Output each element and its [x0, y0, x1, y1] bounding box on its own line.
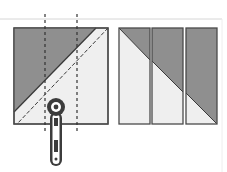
- cutter-hub: [54, 105, 59, 110]
- strip-3: [186, 28, 217, 124]
- cutter-guard: [54, 118, 58, 126]
- strip-1: [119, 28, 150, 124]
- strip-2: [152, 28, 183, 124]
- quilt-cutting-diagram: [0, 0, 227, 172]
- rotary-cutter-icon: [47, 98, 65, 166]
- cutter-grip: [54, 140, 58, 152]
- cutter-end-dot: [55, 158, 58, 161]
- cut-strips: [119, 28, 217, 124]
